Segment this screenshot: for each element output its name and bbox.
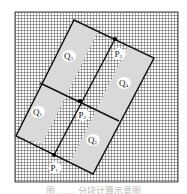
block-diagram: Q3 Q4 Q1 Q2 P3 P2 P1 [0, 0, 187, 194]
label-q3: Q3 [62, 50, 76, 62]
label-p3: P3 [113, 48, 126, 60]
point-p3 [113, 37, 117, 41]
figure-caption: 图 …… 分块计算示意图 [0, 184, 187, 194]
label-p1: P1 [49, 162, 62, 174]
label-q2: Q2 [86, 134, 100, 146]
label-p2: P2 [77, 109, 90, 121]
point-p2 [78, 99, 82, 103]
label-q4: Q4 [117, 77, 131, 89]
label-q1: Q1 [31, 106, 45, 118]
point-p1 [52, 153, 56, 157]
